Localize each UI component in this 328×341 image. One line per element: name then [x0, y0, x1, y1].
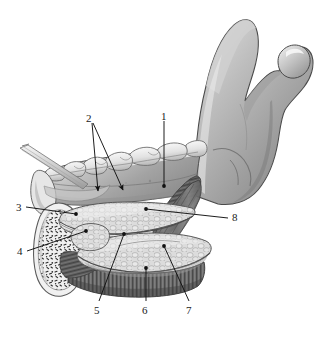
- leader-dot-4: [84, 229, 88, 233]
- label-8: 8: [232, 212, 238, 223]
- body-pore: [125, 182, 127, 184]
- anterior-gland-nodule: [71, 224, 110, 251]
- anatomical-figure: 1 2 3 4 5 6 7 8: [0, 0, 328, 341]
- label-2: 2: [86, 113, 92, 124]
- label-1: 1: [161, 111, 167, 122]
- label-6: 6: [142, 305, 148, 316]
- label-5: 5: [94, 305, 100, 316]
- leader-dot-7: [162, 244, 166, 248]
- leader-dot-5: [122, 232, 126, 236]
- mental-foramen: [149, 180, 151, 182]
- label-4: 4: [17, 246, 23, 257]
- anatomy-illustration: [0, 0, 328, 341]
- leader-dot-1: [162, 184, 166, 188]
- leader-dot-6: [144, 266, 148, 270]
- label-3: 3: [16, 202, 22, 213]
- tooth-1: [186, 141, 207, 157]
- leader-dot-8: [144, 207, 148, 211]
- tooth-4: [105, 152, 132, 170]
- mandibular-ramus-group: [195, 20, 313, 205]
- leader-dot-3: [74, 212, 78, 216]
- label-7: 7: [186, 305, 192, 316]
